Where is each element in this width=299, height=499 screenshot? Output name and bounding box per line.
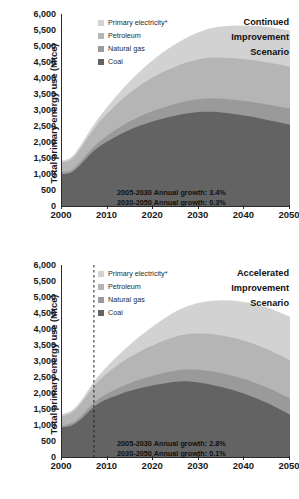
growth-annotation-1: 2005-2030 Annual growth: 3.4% xyxy=(117,188,226,198)
x-axis-tick-mark xyxy=(243,205,244,209)
scenario-title-line-2: Improvement xyxy=(231,30,289,45)
scenario-title: Continued Improvement Scenario xyxy=(231,15,289,60)
x-axis-tick-labels: 200020102020203020402050 xyxy=(61,461,289,475)
legend-item: Coal xyxy=(98,56,168,67)
y-axis-tick-label: 6,000 xyxy=(12,261,56,270)
legend-label-natural-gas: Natural gas xyxy=(108,296,145,303)
y-axis-tick-label: 5,000 xyxy=(12,42,56,51)
x-axis-tick-mark xyxy=(61,205,62,209)
x-axis-tick-mark xyxy=(289,205,290,209)
legend: Primary electricity* Petroleum Natural g… xyxy=(98,268,168,320)
y-axis-tick-label: 1,000 xyxy=(12,421,56,430)
y-axis-tick-label: 3,500 xyxy=(12,341,56,350)
y-axis-tick-labels: 05001,0001,5002,0002,5003,0003,5004,0004… xyxy=(12,14,56,206)
legend-label-primary-electricity: Primary electricity* xyxy=(108,19,168,26)
x-axis-tick-mark xyxy=(289,456,290,460)
y-axis-tick-label: 4,000 xyxy=(12,74,56,83)
chart-panel-accelerated-improvement: Total primary energy use (Mtce) 05001,00… xyxy=(0,255,299,497)
growth-annotation-2: 2030-2050 Annual growth: 0.3% xyxy=(117,198,226,208)
legend: Primary electricity* Petroleum Natural g… xyxy=(98,17,168,69)
y-axis-tick-label: 2,500 xyxy=(12,122,56,131)
y-axis-tick-label: 4,500 xyxy=(12,309,56,318)
x-axis-tick-mark xyxy=(243,456,244,460)
legend-item: Petroleum xyxy=(98,281,168,292)
legend-item: Natural gas xyxy=(98,43,168,54)
y-axis-tick-label: 3,000 xyxy=(12,106,56,115)
x-axis-tick-label: 2020 xyxy=(132,461,172,471)
legend-label-natural-gas: Natural gas xyxy=(108,45,145,52)
y-axis-tick-label: 3,500 xyxy=(12,90,56,99)
legend-item: Coal xyxy=(98,307,168,318)
y-axis-tick-label: 2,500 xyxy=(12,373,56,382)
x-axis-tick-label: 2040 xyxy=(223,210,263,220)
legend-swatch-primary-electricity xyxy=(98,271,104,277)
y-axis-tick-labels: 05001,0001,5002,0002,5003,0003,5004,0004… xyxy=(12,265,56,457)
y-axis-tick-label: 2,000 xyxy=(12,389,56,398)
legend-swatch-coal xyxy=(98,310,104,316)
scenario-title-line-3: Scenario xyxy=(231,296,289,311)
scenario-title-line-3: Scenario xyxy=(231,45,289,60)
scenario-title-line-1: Continued xyxy=(231,15,289,30)
growth-annotation-1: 2005-2030 Annual growth: 2.8% xyxy=(117,439,226,449)
legend-label-coal: Coal xyxy=(108,309,123,316)
y-axis-tick-label: 5,000 xyxy=(12,293,56,302)
scenario-title: Accelerated Improvement Scenario xyxy=(231,266,289,311)
scenario-title-line-1: Accelerated xyxy=(231,266,289,281)
legend-swatch-primary-electricity xyxy=(98,20,104,26)
x-axis-tick-label: 2020 xyxy=(132,210,172,220)
x-axis-tick-label: 2050 xyxy=(269,461,299,471)
x-axis-tick-mark xyxy=(107,205,108,209)
x-axis-tick-label: 2000 xyxy=(41,461,81,471)
growth-annotation-2: 2030-2050 Annual growth: 0.1% xyxy=(117,449,226,459)
y-axis-tick-label: 5,500 xyxy=(12,26,56,35)
x-axis-tick-label: 2030 xyxy=(178,210,218,220)
scenario-title-line-2: Improvement xyxy=(231,281,289,296)
legend-swatch-coal xyxy=(98,59,104,65)
growth-annotations: 2005-2030 Annual growth: 2.8% 2030-2050 … xyxy=(117,439,226,459)
chart-panel-continued-improvement: Total primary energy use (Mtce) 05001,00… xyxy=(0,4,299,246)
legend-swatch-natural-gas xyxy=(98,297,104,303)
x-axis-tick-label: 2000 xyxy=(41,210,81,220)
x-axis-tick-label: 2010 xyxy=(87,210,127,220)
legend-item: Petroleum xyxy=(98,30,168,41)
legend-swatch-petroleum xyxy=(98,284,104,290)
y-axis-tick-label: 500 xyxy=(12,437,56,446)
y-axis-tick-label: 3,000 xyxy=(12,357,56,366)
y-axis-tick-label: 4,000 xyxy=(12,325,56,334)
y-axis-tick-label: 500 xyxy=(12,186,56,195)
y-axis-tick-label: 4,500 xyxy=(12,58,56,67)
y-axis-tick-label: 5,500 xyxy=(12,277,56,286)
legend-item: Primary electricity* xyxy=(98,268,168,279)
x-axis-tick-labels: 200020102020203020402050 xyxy=(61,210,289,224)
y-axis-tick-label: 1,500 xyxy=(12,154,56,163)
x-axis-tick-mark xyxy=(107,456,108,460)
legend-label-petroleum: Petroleum xyxy=(108,283,141,290)
legend-swatch-natural-gas xyxy=(98,46,104,52)
legend-swatch-petroleum xyxy=(98,33,104,39)
legend-label-coal: Coal xyxy=(108,58,123,65)
growth-annotations: 2005-2030 Annual growth: 3.4% 2030-2050 … xyxy=(117,188,226,208)
y-axis-tick-label: 1,500 xyxy=(12,405,56,414)
y-axis-tick-label: 6,000 xyxy=(12,10,56,19)
y-axis-tick-label: 2,000 xyxy=(12,138,56,147)
x-axis-tick-label: 2040 xyxy=(223,461,263,471)
legend-item: Natural gas xyxy=(98,294,168,305)
x-axis-tick-label: 2030 xyxy=(178,461,218,471)
x-axis-tick-label: 2050 xyxy=(269,210,299,220)
figure-root: Total primary energy use (Mtce) 05001,00… xyxy=(0,0,299,499)
x-axis-tick-label: 2010 xyxy=(87,461,127,471)
legend-item: Primary electricity* xyxy=(98,17,168,28)
legend-label-petroleum: Petroleum xyxy=(108,32,141,39)
y-axis-tick-label: 1,000 xyxy=(12,170,56,179)
legend-label-primary-electricity: Primary electricity* xyxy=(108,270,168,277)
x-axis-tick-mark xyxy=(61,456,62,460)
